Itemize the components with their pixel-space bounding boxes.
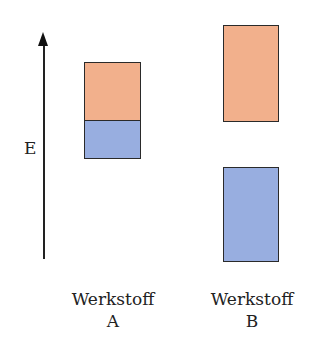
material-b-lower-band <box>223 167 279 262</box>
energy-axis-line <box>43 40 45 259</box>
material-b-label: Werkstoff B <box>197 288 307 332</box>
material-a-name: Werkstoff <box>58 288 168 310</box>
material-a-lower-band <box>84 120 141 159</box>
material-a-letter: A <box>58 310 168 332</box>
material-b-letter: B <box>197 310 307 332</box>
material-a-label: Werkstoff A <box>58 288 168 332</box>
material-b-upper-band <box>223 25 279 122</box>
material-b-name: Werkstoff <box>197 288 307 310</box>
energy-axis-label: E <box>24 138 36 158</box>
energy-axis-arrow-icon <box>38 32 48 46</box>
material-a-upper-band <box>84 62 141 122</box>
